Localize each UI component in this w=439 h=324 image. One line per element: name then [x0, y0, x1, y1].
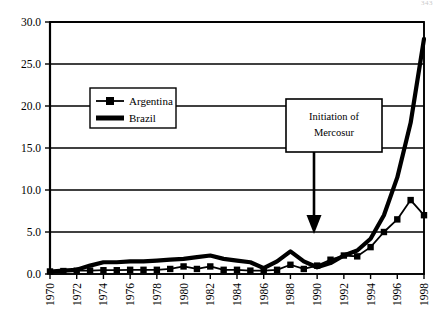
legend-marker-argentina [106, 97, 114, 105]
x-tick-label-1998: 1998 [418, 283, 430, 306]
data-point-argentina-1976 [127, 267, 133, 273]
data-point-argentina-1978 [154, 267, 160, 273]
data-point-argentina-1974 [100, 267, 106, 273]
x-tick-label-1990: 1990 [311, 283, 323, 306]
mercosur-annotation-box [286, 99, 382, 152]
data-point-argentina-1985 [247, 267, 253, 273]
y-tick-label-5.0: 5.0 [27, 226, 42, 238]
mercosur-annotation-line1: Initiation of [309, 111, 359, 122]
y-tick-label-15.0: 15.0 [21, 142, 41, 154]
data-point-argentina-1996 [394, 216, 400, 222]
data-point-argentina-1995 [381, 229, 387, 235]
data-point-argentina-1989 [301, 266, 307, 272]
data-point-argentina-1987 [274, 267, 280, 273]
x-tick-label-1988: 1988 [284, 283, 296, 306]
y-tick-label-0.0: 0.0 [27, 268, 42, 280]
x-tick-label-1984: 1984 [231, 283, 243, 306]
x-axis-ticks: 1970197219741976197819801982198419861988… [44, 274, 430, 306]
chart-legend: Argentina Brazil [90, 88, 176, 128]
data-point-argentina-1981 [194, 266, 200, 272]
x-tick-label-1972: 1972 [71, 283, 83, 306]
data-point-argentina-1997 [407, 197, 413, 203]
x-tick-label-1978: 1978 [151, 283, 163, 306]
chart-figure: 343 0.05.010.015.020.025.030.0 197019721… [0, 0, 439, 324]
data-point-argentina-1980 [180, 263, 186, 269]
data-point-argentina-1988 [287, 262, 293, 268]
x-tick-label-1970: 1970 [44, 283, 56, 306]
y-tick-label-30.0: 30.0 [21, 16, 41, 28]
data-point-argentina-1994 [367, 244, 373, 250]
page-number: 343 [421, 0, 433, 7]
data-point-argentina-1975 [114, 267, 120, 273]
x-tick-label-1974: 1974 [97, 283, 109, 306]
y-tick-label-20.0: 20.0 [21, 100, 41, 112]
legend-label-argentina: Argentina [129, 95, 173, 107]
x-tick-label-1986: 1986 [258, 283, 270, 306]
mercosur-annotation-line2: Mercosur [314, 127, 355, 138]
x-tick-label-1982: 1982 [204, 283, 216, 306]
x-tick-label-1994: 1994 [365, 283, 377, 306]
y-tick-label-25.0: 25.0 [21, 58, 41, 70]
line-chart: 0.05.010.015.020.025.030.0 1970197219741… [0, 0, 439, 324]
legend-label-brazil: Brazil [129, 112, 156, 124]
data-point-argentina-1982 [207, 263, 213, 269]
y-tick-label-10.0: 10.0 [21, 184, 41, 196]
y-axis-ticks: 0.05.010.015.020.025.030.0 [21, 16, 50, 280]
data-point-argentina-1977 [140, 267, 146, 273]
data-point-argentina-1979 [167, 266, 173, 272]
data-point-argentina-1984 [234, 267, 240, 273]
x-tick-label-1992: 1992 [338, 283, 350, 306]
x-tick-label-1996: 1996 [391, 283, 403, 306]
data-point-argentina-1993 [354, 253, 360, 259]
data-point-argentina-1983 [220, 267, 226, 273]
x-tick-label-1976: 1976 [124, 283, 136, 306]
x-tick-label-1980: 1980 [178, 283, 190, 306]
